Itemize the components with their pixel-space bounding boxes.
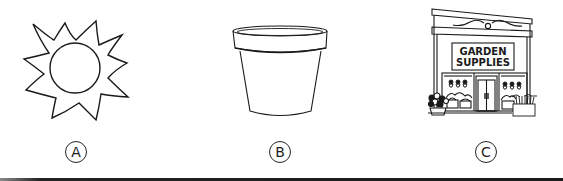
sign-line-1: GARDEN <box>459 46 506 57</box>
answer-choices: A B <box>0 0 563 181</box>
option-a[interactable]: A <box>0 0 190 178</box>
storefront-icon: GARDEN SUPPLIES <box>380 0 563 178</box>
option-c[interactable]: GARDEN SUPPLIES C <box>380 0 563 178</box>
choice-letter-b[interactable]: B <box>269 141 291 163</box>
sun-icon <box>0 0 190 178</box>
bottom-divider <box>0 178 563 181</box>
choice-letter-a[interactable]: A <box>65 141 87 163</box>
sign-line-2: SUPPLIES <box>456 57 510 68</box>
option-b[interactable]: B <box>190 0 380 178</box>
choice-letter-c[interactable]: C <box>475 141 497 163</box>
